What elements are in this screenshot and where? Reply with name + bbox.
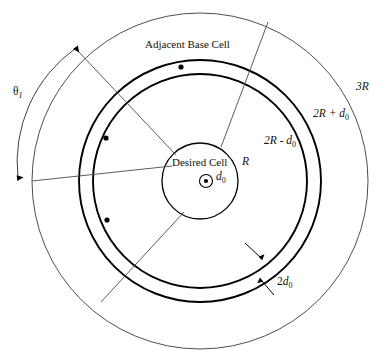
center-offset-label: d0 <box>216 170 226 185</box>
svg-text:2d0: 2d0 <box>277 275 293 290</box>
base-station-dot-northwest <box>103 135 108 140</box>
angle-subscript: 1 <box>19 91 23 100</box>
ring-inner-radius-text: 2R - d <box>264 134 292 146</box>
ring-width-arrow-upper <box>245 243 261 258</box>
figure-container: Adjacent Base Cell Desired Cell 3R 2R + … <box>0 0 385 353</box>
ring-width-subscript: 0 <box>289 281 293 290</box>
desired-cell-label: Desired Cell <box>172 156 227 168</box>
ring-inner-radius-subscript: 0 <box>292 140 296 149</box>
ring-outer-radius-label: 2R + d0 <box>313 107 349 122</box>
svg-text:2R + d0: 2R + d0 <box>313 107 349 122</box>
center-offset-subscript: 0 <box>222 176 226 185</box>
cell-radius-label: R <box>241 155 249 167</box>
svg-text:θ1: θ1 <box>13 85 23 100</box>
ring-width-label: 2d0 <box>277 275 293 290</box>
svg-text:2R - d0: 2R - d0 <box>264 134 296 149</box>
ring-inner-radius-label: 2R - d0 <box>264 134 296 149</box>
cell-geometry-diagram: Adjacent Base Cell Desired Cell 3R 2R + … <box>0 0 385 353</box>
svg-text:d0: d0 <box>216 170 226 185</box>
base-station-dot-north <box>178 64 183 69</box>
outer-radius-label: 3R <box>355 80 369 92</box>
center-point-dot <box>204 179 208 183</box>
base-station-dot-southwest <box>104 217 109 222</box>
sector-divider-west <box>32 166 172 181</box>
angle-label: θ1 <box>13 85 23 100</box>
ring-outer-radius-subscript: 0 <box>345 113 349 122</box>
adjacent-base-cell-label: Adjacent Base Cell <box>145 38 230 50</box>
ring-outer-radius-text: 2R + d <box>313 107 345 119</box>
